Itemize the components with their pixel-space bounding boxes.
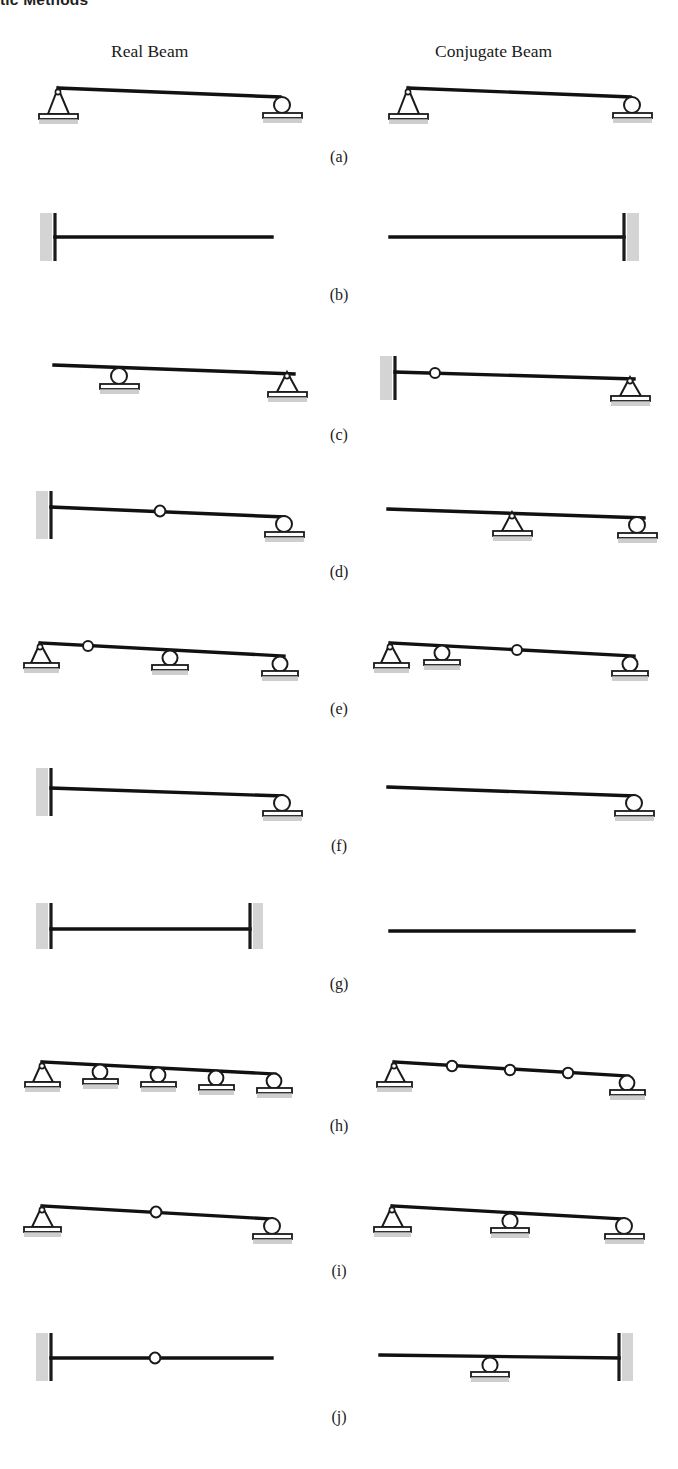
beam-svg-conjugate-a bbox=[372, 78, 672, 140]
support-roller bbox=[263, 795, 302, 821]
support-roller bbox=[615, 795, 654, 821]
internal-hinge bbox=[151, 1207, 162, 1218]
beam-svg-conjugate-j bbox=[372, 1325, 672, 1387]
beam-member bbox=[51, 507, 284, 517]
beam-member bbox=[54, 365, 294, 374]
beam-svg-real-h bbox=[22, 1040, 322, 1102]
support-roller bbox=[265, 516, 304, 542]
support-roller bbox=[618, 517, 657, 543]
real-beam-a bbox=[22, 78, 322, 140]
beam-member bbox=[40, 643, 284, 656]
internal-hinge bbox=[155, 506, 166, 517]
support-pin bbox=[39, 88, 78, 124]
internal-hinge bbox=[447, 1061, 457, 1071]
support-pin bbox=[611, 377, 650, 406]
support-pin bbox=[268, 372, 307, 402]
beam-member bbox=[380, 1355, 619, 1358]
diagram-row-h bbox=[0, 1040, 678, 1102]
real-beam-c bbox=[22, 350, 322, 412]
support-roller bbox=[262, 657, 298, 682]
support-fixed bbox=[36, 1333, 51, 1381]
beam-svg-real-d bbox=[22, 485, 322, 547]
diagram-row-d bbox=[0, 485, 678, 547]
column-heading-conjugate-beam: Conjugate Beam bbox=[435, 41, 552, 62]
internal-hinge bbox=[83, 641, 93, 651]
beam-svg-real-e bbox=[22, 625, 322, 687]
support-roller bbox=[257, 1074, 292, 1098]
support-pin bbox=[493, 512, 532, 541]
row-label-h: (h) bbox=[309, 1117, 369, 1135]
internal-hinge bbox=[150, 1353, 161, 1364]
support-pin bbox=[24, 643, 59, 673]
beam-svg-real-c bbox=[22, 350, 322, 412]
support-pin bbox=[377, 1062, 412, 1092]
support-pin bbox=[389, 88, 428, 124]
running-head: tic Methods bbox=[0, 0, 300, 13]
beam-member bbox=[388, 509, 644, 518]
support-roller bbox=[100, 368, 139, 394]
beam-svg-conjugate-f bbox=[372, 762, 672, 824]
support-roller bbox=[199, 1071, 234, 1095]
support-fixed bbox=[619, 1333, 633, 1381]
column-heading-real-beam: Real Beam bbox=[111, 41, 188, 62]
row-label-g: (g) bbox=[309, 975, 369, 993]
beam-svg-real-f bbox=[22, 762, 322, 824]
conjugate-beam-b bbox=[372, 205, 672, 267]
support-roller bbox=[263, 97, 302, 123]
beam-svg-conjugate-b bbox=[372, 205, 672, 267]
beam-svg-real-b bbox=[22, 205, 322, 267]
row-label-d: (d) bbox=[309, 563, 369, 581]
support-roller bbox=[491, 1213, 529, 1238]
support-roller bbox=[613, 97, 652, 123]
conjugate-beam-j bbox=[372, 1325, 672, 1387]
conjugate-beam-i bbox=[372, 1185, 672, 1247]
row-label-j: (j) bbox=[309, 1408, 369, 1426]
support-fixed bbox=[624, 213, 639, 261]
support-roller bbox=[612, 657, 648, 682]
real-beam-i bbox=[22, 1185, 322, 1247]
real-beam-b bbox=[22, 205, 322, 267]
beam-svg-conjugate-e bbox=[372, 625, 672, 687]
conjugate-beam-f bbox=[372, 762, 672, 824]
support-roller bbox=[253, 1218, 292, 1244]
beam-svg-real-i bbox=[22, 1185, 322, 1247]
support-roller bbox=[83, 1065, 118, 1089]
internal-hinge bbox=[430, 368, 440, 378]
row-label-c: (c) bbox=[309, 426, 369, 444]
internal-hinge bbox=[563, 1068, 573, 1078]
diagram-row-c bbox=[0, 350, 678, 412]
beam-svg-real-a bbox=[22, 78, 322, 140]
beam-svg-conjugate-h bbox=[372, 1040, 672, 1102]
row-label-a: (a) bbox=[309, 148, 369, 166]
support-pin bbox=[374, 643, 409, 673]
support-roller bbox=[152, 651, 188, 676]
figure-page: tic Methods Real Beam Conjugate Beam bbox=[0, 0, 678, 1469]
support-roller bbox=[605, 1218, 644, 1244]
diagram-row-e bbox=[0, 625, 678, 687]
real-beam-g bbox=[22, 895, 322, 957]
conjugate-beam-g bbox=[372, 895, 672, 957]
internal-hinge bbox=[505, 1065, 515, 1075]
conjugate-beam-e bbox=[372, 625, 672, 687]
diagram-row-g bbox=[0, 895, 678, 957]
beam-svg-conjugate-d bbox=[372, 485, 672, 547]
support-roller bbox=[424, 646, 460, 671]
diagram-row-a bbox=[0, 78, 678, 140]
conjugate-beam-c bbox=[372, 350, 672, 412]
support-fixed bbox=[36, 903, 51, 949]
real-beam-h bbox=[22, 1040, 322, 1102]
diagram-row-f bbox=[0, 762, 678, 824]
real-beam-f bbox=[22, 762, 322, 824]
diagram-row-b bbox=[0, 205, 678, 267]
real-beam-d bbox=[22, 485, 322, 547]
beam-svg-real-g bbox=[22, 895, 322, 957]
support-pin bbox=[25, 1062, 60, 1092]
row-label-i: (i) bbox=[309, 1262, 369, 1280]
support-roller bbox=[471, 1357, 509, 1382]
conjugate-beam-h bbox=[372, 1040, 672, 1102]
beam-member bbox=[58, 88, 280, 97]
row-label-f: (f) bbox=[309, 837, 369, 855]
beam-svg-real-j bbox=[22, 1325, 322, 1387]
real-beam-e bbox=[22, 625, 322, 687]
diagram-row-j bbox=[0, 1325, 678, 1387]
